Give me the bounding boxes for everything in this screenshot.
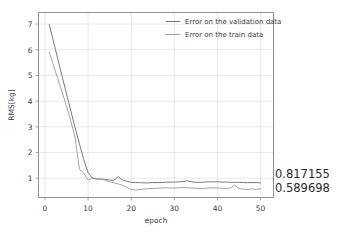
- x-tick-label: 40: [213, 204, 223, 213]
- legend-label-train: Error on the train data: [185, 31, 263, 39]
- y-tick-label: 3: [28, 123, 33, 132]
- validation-final-value: 0.817155: [275, 167, 330, 181]
- x-tick-label: 20: [126, 204, 136, 213]
- x-tick-label: 10: [83, 204, 93, 213]
- y-tick-label: 5: [28, 71, 33, 80]
- y-tick-label: 2: [28, 148, 33, 157]
- y-axis-label: RMS[kg]: [7, 89, 16, 120]
- rms-vs-epoch-chart: 01020304050 1234567 epoch RMS[kg] Error …: [0, 0, 345, 236]
- x-tick-label: 0: [43, 204, 48, 213]
- y-tick-label: 1: [28, 174, 33, 183]
- value-annotations: 0.817155 0.589698: [275, 167, 330, 195]
- x-tick-label: 50: [256, 204, 266, 213]
- train-final-value: 0.589698: [275, 181, 330, 195]
- x-axis-label: epoch: [145, 216, 168, 225]
- y-tick-label: 7: [28, 20, 33, 29]
- x-tick-label: 30: [170, 204, 180, 213]
- y-tick-label: 6: [28, 46, 33, 55]
- legend-label-validation: Error on the validation data: [185, 18, 281, 26]
- y-tick-label: 4: [28, 97, 33, 106]
